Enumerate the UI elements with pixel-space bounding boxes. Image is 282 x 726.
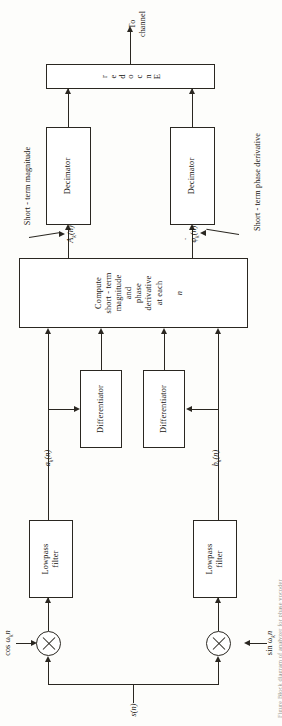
phik-symbol: φ [189,238,198,243]
Ak-symbol: A [66,238,75,243]
decimator-bottom-to-encoder-line [192,89,193,127]
input-symbol: s(n) [129,703,139,716]
cos-symbol: cos ω [3,637,12,656]
magnitude-leader-arrowhead [59,231,65,237]
input-to-mult-top-line [48,660,49,685]
lowpass-bottom-output-line [218,440,219,520]
input-to-mult-top-arrowhead [45,656,51,662]
compute-block-label: Compute short - term magnitude and phase… [83,273,184,314]
encoder-output-arrowhead [127,26,133,32]
figure-canvas: To channel E n c o d e r Decimator Decim… [0,0,282,726]
lowpass-top-output-line [48,440,49,520]
to-channel-label: To channel [120,0,156,54]
short-term-magnitude-annotation: Short - term magnitude [22,136,34,236]
compute-input-arrowhead-2 [98,328,104,334]
compute-label-n: n [174,291,183,295]
decimator-top-to-encoder-arrowhead [65,88,71,94]
figure-caption: Figure Block diagram of analyzer for pha… [276,579,282,718]
decimator-top-block[interactable]: Decimator [46,127,91,225]
decimator-bottom-block[interactable]: Decimator [170,127,215,225]
compute-input-line-3 [164,332,165,370]
phase-derivative-leader-line [206,229,239,235]
lowpass-top-label: Lowpass filter [41,544,61,575]
short-term-phase-derivative-annotation: Short - term phase derivative [252,120,264,244]
cos-carrier-label: cos ωkn [3,625,15,661]
bk-branch-arrowhead [186,406,192,412]
decimator-top-to-encoder-line [68,89,69,127]
phik-signal-label: φk(n) [189,217,201,251]
input-signal-label: s(n) [128,693,140,726]
compute-label-text: Compute short - term magnitude and phase… [93,273,162,314]
compute-input-arrowhead-3 [161,328,167,334]
compute-input-line-1 [48,332,49,440]
differentiator-right-label: Differentiator [159,385,169,433]
decimator-bottom-to-encoder-arrowhead [189,88,195,94]
lowpass-bottom-block[interactable]: Lowpass filter [193,520,237,598]
cos-carrier-arrowhead [31,640,37,646]
cos-subscript: k [8,634,14,637]
cos-arg: n [3,630,12,634]
decimator-bottom-label: Decimator [188,158,198,195]
mult-top-to-lowpass-arrowhead [45,597,51,603]
sin-carrier-arrowhead [244,640,250,646]
differentiator-left-label: Differentiator [96,385,106,433]
differentiator-left-block[interactable]: Differentiator [80,370,122,448]
decimator-top-label: Decimator [64,158,74,195]
sin-symbol: sin ω [265,638,274,656]
multiplier-bottom[interactable] [206,631,231,656]
encoder-block[interactable]: E n c o d e r [46,64,215,89]
lowpass-bottom-label: Lowpass filter [205,544,225,575]
ak-signal-label: ak(n) [43,441,55,475]
ak-branch-line [48,409,75,410]
encoder-letter: E [152,74,161,79]
Ak-signal-label: Ak(n) [66,217,78,251]
lowpass-top-block[interactable]: Lowpass filter [29,520,73,598]
compute-input-arrowhead-1 [45,328,51,334]
compute-block[interactable]: Compute short - term magnitude and phase… [19,258,248,328]
compute-input-arrowhead-4 [215,328,221,334]
multiplier-top[interactable] [36,631,61,656]
ak-branch-arrowhead [74,406,80,412]
phik-arg: (n) [189,225,198,235]
Ak-arg: (n) [66,225,75,235]
input-to-mult-bottom-arrowhead [215,656,221,662]
encoder-label: E n c o d e r [100,74,161,79]
bk-branch-line [191,409,218,410]
compute-input-line-4 [218,332,219,440]
mult-bottom-to-lowpass-arrowhead [215,597,221,603]
sin-arg: n [265,631,274,635]
Ak-subscript: k [71,235,77,238]
input-to-mult-bottom-line [218,660,219,685]
bk-signal-label: bk(n) [211,441,223,475]
encoder-output-line [130,30,131,64]
differentiator-right-block[interactable]: Differentiator [143,370,185,448]
compute-input-line-2 [101,332,102,370]
